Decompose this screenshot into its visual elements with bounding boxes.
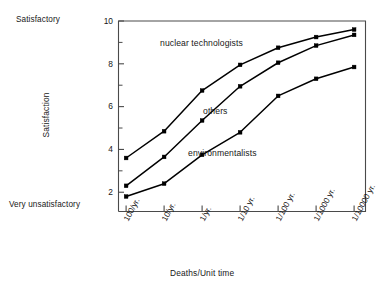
- x-tick-label: 1/100 yr.: [275, 191, 297, 223]
- x-tick-label: 1/1000 yr.: [313, 187, 337, 223]
- x-tick-label: 1/10 yr.: [237, 195, 257, 223]
- series-label-environmentalists: environmentalists: [188, 148, 257, 158]
- x-tick-label: 1/10000 yr.: [351, 183, 377, 223]
- x-tick-label: 1/yr.: [199, 205, 214, 223]
- series-label-nuclear-technologists: nuclear technologists: [160, 38, 243, 48]
- x-tick-label: 100/yr.: [123, 197, 142, 223]
- x-tick-label: 10/yr.: [161, 201, 178, 223]
- chart-figure: Satisfactory Very unsatisfactory Satisfa…: [0, 0, 377, 284]
- series-label-others: others: [203, 106, 228, 116]
